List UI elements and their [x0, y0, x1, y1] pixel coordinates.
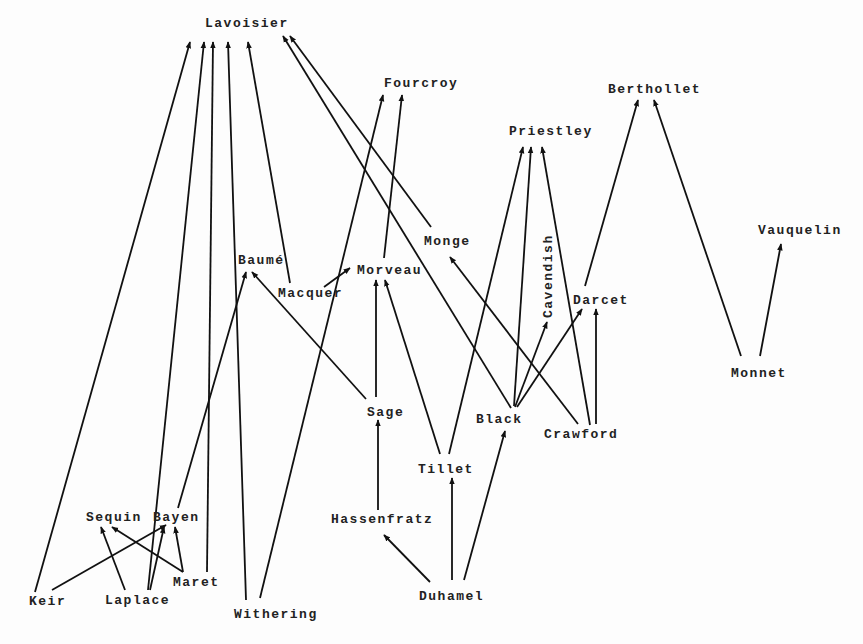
- node-priestley: Priestley: [509, 125, 593, 139]
- edge-black-to-lavoisier: [283, 36, 511, 408]
- edge-monnet-to-vauquelin: [760, 244, 781, 356]
- edge-monge-to-lavoisier: [290, 36, 431, 227]
- edge-tillet-to-priestley: [449, 147, 523, 454]
- node-fourcroy: Fourcroy: [384, 77, 458, 91]
- node-withering: Withering: [234, 608, 318, 622]
- edge-withering-to-lavoisier: [228, 42, 246, 600]
- node-duhamel: Duhamel: [419, 590, 484, 604]
- edge-black-to-cavendish: [515, 322, 547, 407]
- node-crawford: Crawford: [544, 428, 618, 442]
- edge-duhamel-to-black: [464, 431, 505, 580]
- node-bayen: Bayen: [153, 511, 200, 525]
- node-keir: Keir: [29, 595, 66, 609]
- node-berthollet: Berthollet: [608, 83, 701, 97]
- node-morveau: Morveau: [357, 264, 422, 278]
- node-tillet: Tillet: [418, 463, 474, 477]
- node-sequin: Sequin: [86, 511, 142, 525]
- node-hassenfratz: Hassenfratz: [331, 513, 433, 527]
- node-monge: Monge: [424, 235, 471, 249]
- node-cavendish: Cavendish: [542, 234, 556, 318]
- node-black: Black: [476, 413, 523, 427]
- edge-macquer-to-lavoisier: [248, 42, 290, 283]
- edge-bayen-to-baume: [178, 272, 246, 508]
- node-vauquelin: Vauquelin: [758, 224, 842, 238]
- edge-laplace-to-sequin: [101, 527, 125, 590]
- edge-duhamel-to-hassenfratz: [384, 535, 430, 582]
- node-maret: Maret: [173, 576, 220, 590]
- node-macquer: Macquer: [278, 287, 343, 301]
- edge-layer: [0, 0, 863, 644]
- edge-laplace-to-lavoisier: [148, 42, 204, 590]
- edge-tillet-to-morveau: [385, 280, 440, 454]
- node-sage: Sage: [367, 406, 404, 420]
- edge-black-to-priestley: [514, 147, 531, 406]
- node-lavoisier: Lavoisier: [205, 17, 289, 31]
- influence-diagram: LavoisierFourcroyBertholletPriestleyVauq…: [0, 0, 863, 644]
- edge-darcet-to-berthollet: [585, 100, 638, 286]
- edge-monnet-to-berthollet: [654, 100, 741, 356]
- node-baume: Baumé: [238, 254, 285, 268]
- edge-maret-to-lavoisier: [207, 42, 213, 572]
- edge-maret-to-bayen: [175, 527, 183, 572]
- edge-morveau-to-fourcroy: [384, 95, 402, 258]
- node-monnet: Monnet: [731, 367, 787, 381]
- node-darcet: Darcet: [573, 294, 629, 308]
- node-laplace: Laplace: [105, 594, 170, 608]
